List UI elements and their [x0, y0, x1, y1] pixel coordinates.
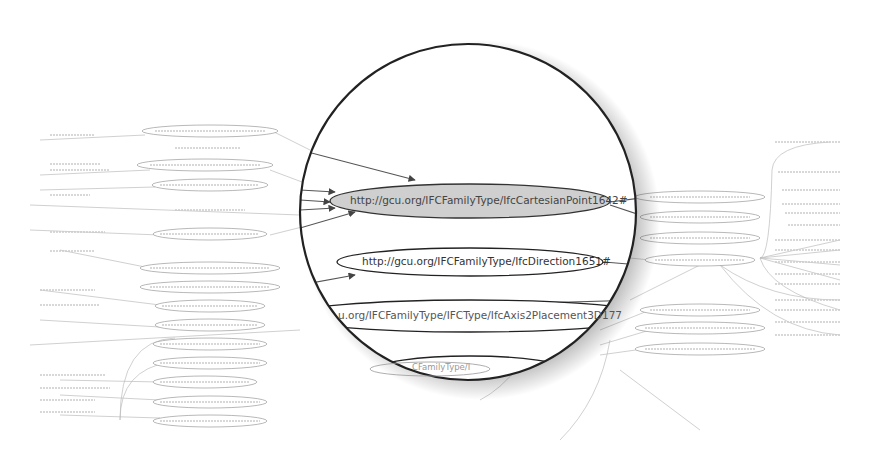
- node-label-ifcdirection: http://gcu.org/IFCFamilyType/IfcDirectio…: [362, 255, 611, 267]
- graph-canvas[interactable]: [0, 0, 885, 457]
- node-label-ifccartesianpoint: http://gcu.org/IFCFamilyType/IfcCartesia…: [350, 194, 628, 206]
- node-label-partial-bottom: CFamilyType/I: [412, 362, 470, 372]
- node-label-ifcaxis2placement: u.org/IFCFamilyType/IFCType/IfcAxis2Plac…: [338, 309, 622, 321]
- background-right-labels: [645, 142, 840, 349]
